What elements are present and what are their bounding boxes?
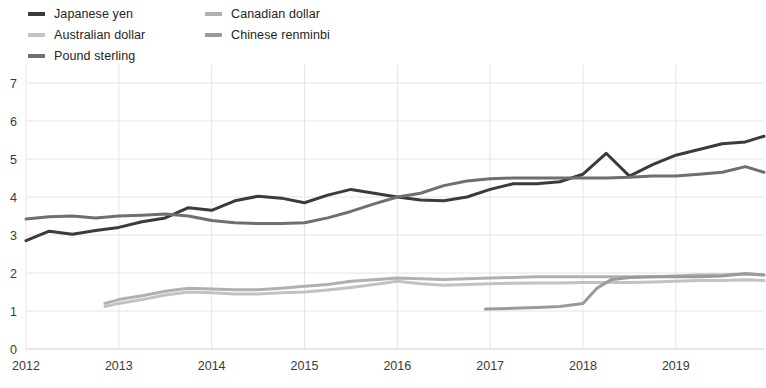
plot-svg: 01234567 2012201320142015201620172018201… — [0, 62, 766, 388]
legend-swatch-icon — [28, 12, 45, 16]
legend-item-label: Chinese renminbi — [231, 28, 330, 42]
series-line-australian-dollar — [105, 280, 764, 307]
legend-column-right: Canadian dollar Chinese renminbi — [205, 4, 330, 46]
y-axis-ticks: 01234567 — [10, 77, 17, 357]
x-axis-tick-label: 2018 — [569, 359, 597, 373]
chart-legend: Japanese yen Australian dollar Pound ste… — [0, 0, 766, 62]
x-axis-tick-label: 2014 — [198, 359, 226, 373]
legend-item-label: Japanese yen — [54, 7, 133, 21]
plot-area: 01234567 2012201320142015201620172018201… — [0, 62, 766, 388]
legend-swatch-icon — [28, 33, 45, 37]
legend-swatch-icon — [205, 33, 222, 37]
y-axis-tick-label: 2 — [10, 267, 17, 281]
y-axis-tick-label: 1 — [10, 305, 17, 319]
legend-column-left: Japanese yen Australian dollar Pound ste… — [28, 4, 145, 67]
x-axis-tick-label: 2015 — [291, 359, 319, 373]
legend-item: Chinese renminbi — [205, 25, 330, 44]
legend-item-label: Pound sterling — [54, 49, 135, 63]
legend-swatch-icon — [205, 12, 222, 16]
x-axis-tick-label: 2017 — [476, 359, 504, 373]
x-axis-tick-label: 2019 — [662, 359, 690, 373]
y-axis-tick-label: 5 — [10, 153, 17, 167]
x-axis-tick-label: 2016 — [383, 359, 411, 373]
legend-item: Japanese yen — [28, 4, 145, 23]
series-lines — [26, 136, 764, 309]
legend-item-label: Australian dollar — [54, 28, 145, 42]
y-axis-tick-label: 7 — [10, 77, 17, 91]
series-line-chinese-renminbi — [486, 274, 764, 309]
y-axis-tick-label: 3 — [10, 229, 17, 243]
currency-usage-line-chart: Japanese yen Australian dollar Pound ste… — [0, 0, 766, 388]
grid-lines — [26, 65, 764, 349]
series-line-japanese-yen — [26, 136, 764, 241]
legend-item: Canadian dollar — [205, 4, 330, 23]
x-axis-tick-label: 2012 — [12, 359, 40, 373]
legend-item: Australian dollar — [28, 25, 145, 44]
legend-item-label: Canadian dollar — [231, 7, 320, 21]
y-axis-tick-label: 0 — [10, 343, 17, 357]
x-axis-tick-label: 2013 — [105, 359, 133, 373]
legend-swatch-icon — [28, 54, 45, 58]
y-axis-tick-label: 6 — [10, 115, 17, 129]
y-axis-tick-label: 4 — [10, 191, 17, 205]
series-line-pound-sterling — [26, 167, 764, 224]
x-axis-ticks: 20122013201420152016201720182019 — [12, 359, 690, 373]
